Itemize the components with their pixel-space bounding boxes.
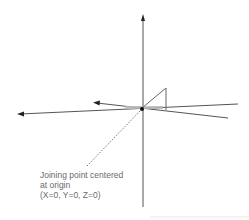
coordinate-axes-diagram: [0, 0, 249, 220]
leader-line: [87, 111, 140, 166]
triangle-hypotenuse: [142, 88, 166, 108]
horizontal-axis-arrow-icon: [17, 112, 24, 117]
diagram-canvas: Joining point centered at origin (X=0, Y…: [0, 0, 249, 220]
annotation-line-1: Joining point centered: [40, 170, 123, 180]
origin-annotation: Joining point centered at origin (X=0, Y…: [40, 170, 123, 200]
depth-axis-arrow-icon: [93, 101, 100, 106]
vertical-axis-arrow-icon: [141, 14, 145, 21]
annotation-line-2: at origin: [40, 180, 123, 190]
annotation-line-3: (X=0, Y=0, Z=0): [40, 190, 123, 200]
origin-point: [140, 107, 144, 111]
